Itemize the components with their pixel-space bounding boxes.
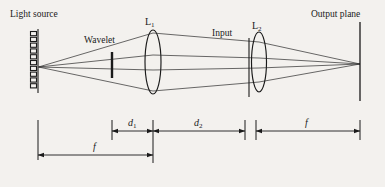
lens-L2 [252, 32, 267, 92]
light-source-grating [31, 29, 39, 93]
optical-diagram-figure: Light source Wavelet L1 Input L2 Output … [0, 0, 385, 187]
d1-subscript: 1 [133, 122, 137, 130]
wavelet-label: Wavelet [84, 36, 115, 46]
lens-L1-subscript: 1 [151, 21, 155, 29]
dimension-d2-label: d2 [194, 118, 203, 130]
dimension-f-right-label: f [305, 118, 308, 128]
dimension-f-left-label: f [93, 142, 96, 152]
lens-L1-label: L1 [145, 17, 155, 29]
diagram-canvas [0, 0, 385, 187]
ray-bundle-lens1-to-lens2 [153, 33, 259, 91]
lens-L1 [145, 30, 161, 94]
light-source-label: Light source [10, 10, 58, 20]
dimension-d1-label: d1 [128, 118, 137, 130]
d2-subscript: 2 [199, 122, 203, 130]
ray-bundle-lens2-to-output [259, 42, 360, 82]
lens-L2-label: L2 [252, 21, 262, 33]
input-label: Input [212, 29, 232, 39]
lens-L2-subscript: 2 [258, 25, 262, 33]
output-plane-label: Output plane [311, 10, 360, 20]
